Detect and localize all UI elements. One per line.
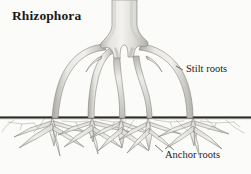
- rhizophora-diagram: Rhizophora Stilt roots Anchor roots: [0, 0, 251, 174]
- ground-line: [0, 116, 251, 119]
- label-anchor-roots: Anchor roots: [165, 149, 220, 160]
- page-title: Rhizophora: [12, 8, 81, 23]
- diagram-canvas: Rhizophora Stilt roots Anchor roots: [0, 0, 251, 174]
- label-stilt-roots: Stilt roots: [186, 63, 227, 74]
